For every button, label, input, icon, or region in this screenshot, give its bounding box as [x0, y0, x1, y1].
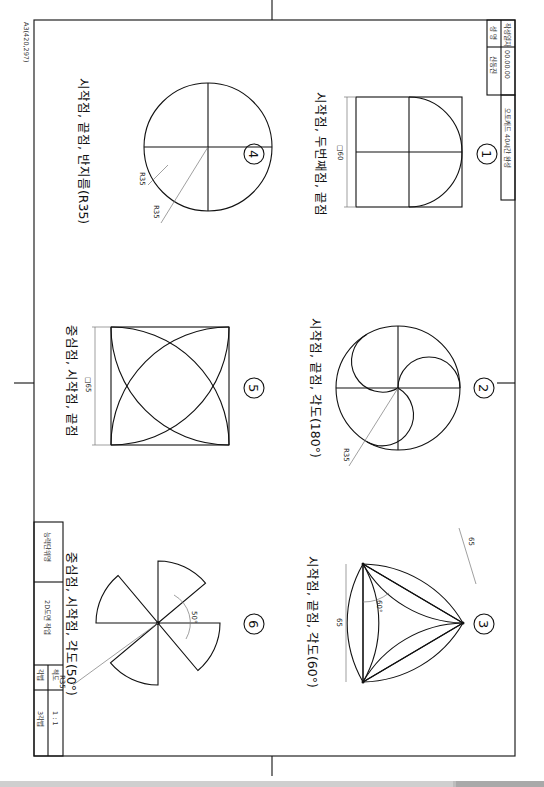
projection-label: 각법: [36, 669, 45, 681]
dimension-label: R35: [138, 172, 146, 186]
drawing-viewport: A3(420,297) 작성일자 00.00.00 성 명 신동진 오토캐드 4…: [0, 0, 544, 787]
angle-label: 50°: [190, 611, 198, 623]
dimension-label: 65: [335, 618, 343, 627]
figure-caption: 중심점, 시작점, 각도(50°): [64, 552, 79, 696]
figure-4: 4 R35 R35 시작점, 끝점, 반지름(R35): [76, 78, 272, 224]
scale-value: 1 : 1: [51, 711, 59, 726]
date-label: 작성일자: [503, 23, 512, 47]
projection-value: 3각법: [36, 711, 45, 727]
title-block-bottom: 능력단위명 2D도면 작업 척도 1 : 1 각법 3각법: [34, 522, 63, 756]
name-value: 신동진: [489, 56, 498, 74]
figure-number: 1: [479, 150, 494, 158]
figure-number: 6: [246, 620, 261, 628]
figure-5: 5 □65 중심점, 시작점, 끝점: [64, 325, 264, 445]
figure-number: 4: [246, 150, 261, 158]
title-block-top: 작성일자 00.00.00 성 명 신동진 오토캐드 40시간 완성: [487, 20, 515, 200]
figure-caption: 시작점, 끝점, 각도(60°): [305, 556, 320, 688]
figure-6: 6 50° R35 중심점, 시작점, 각도(50°): [58, 552, 264, 696]
figure-caption: 시작점, 끝점, 각도(180°): [308, 318, 323, 458]
figure-caption: 시작점, 끝점, 반지름(R35): [76, 78, 91, 224]
name-label: 성 명: [489, 26, 498, 40]
dimension-label: 65: [467, 537, 475, 546]
unit-label: 능력단위명: [43, 532, 52, 562]
course-title: 오토캐드 40시간 완성: [503, 108, 512, 168]
figure-number: 2: [476, 384, 491, 392]
dimension-label: R35: [152, 205, 160, 219]
figure-1: 1 □60 시작점, 두번째점, 끝점: [313, 92, 497, 216]
figure-3: 3 65 65 60° 시작점: [305, 528, 494, 688]
scrollbar-thumb[interactable]: [456, 781, 544, 787]
figure-number: 5: [246, 384, 261, 392]
unit-value: 2D도면 작업: [43, 600, 52, 635]
paper-size-label: A3(420,297): [22, 22, 30, 63]
angle-label: 60°: [375, 600, 383, 612]
figure-number: 3: [476, 620, 491, 628]
dimension-label: □60: [336, 145, 344, 161]
horizontal-scrollbar[interactable]: [0, 781, 544, 787]
dimension-label: R35: [342, 448, 350, 462]
dimension-label: □65: [84, 377, 92, 393]
scrollbar-track[interactable]: [0, 781, 453, 787]
figure-caption: 시작점, 두번째점, 끝점: [313, 92, 328, 216]
scale-label: 척도: [51, 669, 59, 681]
date-value: 00.00.00: [503, 50, 511, 79]
figure-caption: 중심점, 시작점, 끝점: [64, 325, 79, 437]
drawing-sheet: A3(420,297) 작성일자 00.00.00 성 명 신동진 오토캐드 4…: [0, 0, 544, 787]
figure-2: 2 R35 시작점, 끝점, 각도(180°): [308, 318, 494, 466]
